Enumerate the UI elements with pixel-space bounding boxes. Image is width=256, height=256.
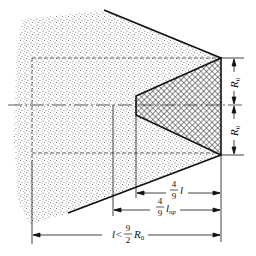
dim-lnp-numerator: 4 bbox=[158, 196, 163, 206]
dim-l-denominator: 9 bbox=[172, 191, 177, 201]
r0-lower-label: R0 bbox=[228, 125, 242, 137]
dim-total-numerator: 9 bbox=[126, 223, 131, 233]
dim-l-var: l bbox=[180, 184, 183, 196]
dim-total-denominator: 2 bbox=[126, 235, 131, 245]
dim-4-9-l bbox=[137, 191, 220, 195]
dim-lnp-var: lnp bbox=[166, 202, 177, 216]
dim-l-numerator: 4 bbox=[172, 179, 177, 189]
dim-total-prefix: l< bbox=[112, 228, 122, 240]
dim-lnp-denominator: 9 bbox=[158, 208, 163, 218]
r0-upper-label: R0 bbox=[228, 77, 242, 89]
dim-total-var: R0 bbox=[133, 228, 145, 242]
r0-dimensions bbox=[232, 59, 236, 154]
cone-diagram: R0 R0 4 9 l 4 9 lnp l< 9 2 R0 bbox=[0, 0, 256, 256]
